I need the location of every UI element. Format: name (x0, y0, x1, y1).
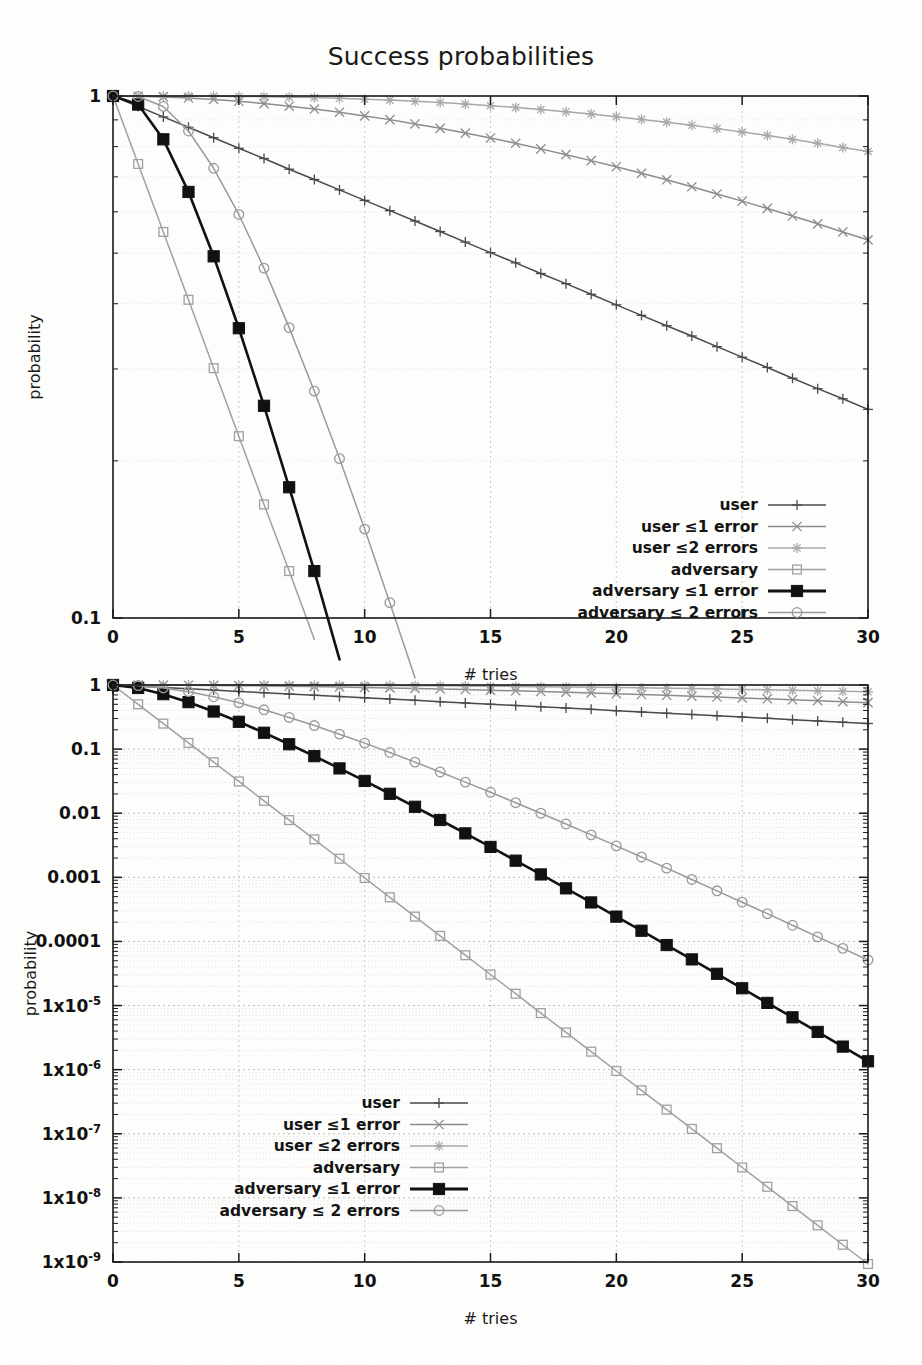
x-tick-label: 5 (233, 627, 245, 647)
data-point-plus (309, 690, 319, 700)
data-point-asterisk (838, 142, 848, 152)
data-point-plus (460, 698, 470, 708)
y-tick-label: 0.01 (59, 803, 101, 823)
data-point-filled-square (233, 323, 244, 334)
data-point-plus (435, 697, 445, 707)
data-point-plus (813, 716, 823, 726)
legend: useruser ≤1 erroruser ≤2 errorsadversary… (577, 496, 826, 622)
legend-label: adversary (671, 561, 758, 579)
data-point-filled-square (433, 1183, 444, 1194)
legend-label: user ≤2 errors (632, 539, 758, 557)
x-tick-label: 5 (233, 1271, 245, 1291)
data-point-plus (385, 694, 395, 704)
legend-label: user (362, 1094, 401, 1112)
data-point-plus (838, 717, 848, 727)
data-point-plus (788, 715, 798, 725)
data-point-cross (712, 189, 721, 198)
data-point-plus (158, 112, 168, 122)
data-point-asterisk (838, 686, 848, 696)
y-tick-label: 1x10-5 (42, 994, 101, 1016)
data-point-asterisk (637, 114, 647, 124)
legend-label: adversary ≤1 error (234, 1180, 400, 1198)
data-point-filled-square (791, 585, 802, 596)
data-point-filled-square (611, 911, 622, 922)
data-point-asterisk (813, 138, 823, 148)
x-tick-label: 10 (353, 627, 377, 647)
x-tick-label: 10 (353, 1271, 377, 1291)
series-0 (108, 91, 873, 414)
data-point-plus (561, 279, 571, 289)
data-point-asterisk (335, 93, 345, 103)
data-point-filled-square (284, 739, 295, 750)
data-point-plus (813, 384, 823, 394)
data-point-filled-square (636, 925, 647, 936)
data-point-asterisk (561, 107, 571, 117)
data-point-plus (788, 373, 798, 383)
data-point-plus (486, 699, 496, 709)
data-point-cross (662, 175, 671, 184)
data-point-plus (712, 711, 722, 721)
data-point-asterisk (511, 681, 521, 691)
data-point-plus (511, 700, 521, 710)
data-point-filled-square (309, 565, 320, 576)
data-point-asterisk (687, 120, 697, 130)
y-tick-label: 1x10-8 (42, 1186, 101, 1208)
data-point-plus (486, 248, 496, 258)
data-point-asterisk (586, 109, 596, 119)
data-point-plus (611, 300, 621, 310)
legend: useruser ≤1 erroruser ≤2 errorsadversary… (219, 1094, 468, 1220)
data-point-cross (788, 211, 797, 220)
data-point-filled-square (586, 897, 597, 908)
data-point-plus (611, 706, 621, 716)
data-point-filled-square (208, 706, 219, 717)
y-tick-label: 1 (89, 675, 101, 695)
page-title: Success probabilities (0, 42, 922, 71)
data-point-asterisk (284, 92, 294, 102)
series-line (113, 96, 314, 639)
data-point-asterisk (561, 682, 571, 692)
data-point-asterisk (813, 686, 823, 696)
data-point-plus (460, 237, 470, 247)
data-point-plus (637, 310, 647, 320)
data-point-filled-square (737, 983, 748, 994)
y-tick-label: 1x10-6 (42, 1058, 101, 1080)
data-point-asterisk (611, 112, 621, 122)
data-point-plus (662, 708, 672, 718)
data-point-plus (536, 702, 546, 712)
y-tick-label: 1x10-9 (42, 1250, 101, 1272)
data-point-plus (259, 154, 269, 164)
top-chart-svg: 05101520253010.1# triesprobabilityuserus… (0, 70, 922, 680)
data-point-filled-square (711, 968, 722, 979)
data-point-plus (234, 143, 244, 153)
data-point-plus (385, 206, 395, 216)
top-chart: 05101520253010.1# triesprobabilityuserus… (0, 70, 922, 680)
data-point-filled-square (686, 954, 697, 965)
data-point-asterisk (460, 99, 470, 109)
y-tick-label: 0.1 (71, 739, 101, 759)
data-point-plus (360, 693, 370, 703)
data-point-plus (762, 713, 772, 723)
data-point-asterisk (434, 1141, 444, 1151)
data-point-asterisk (511, 102, 521, 112)
data-point-filled-square (485, 841, 496, 852)
data-point-asterisk (410, 96, 420, 106)
data-point-filled-square (233, 716, 244, 727)
data-point-asterisk (737, 127, 747, 137)
data-point-filled-square (183, 697, 194, 708)
data-point-filled-square (284, 482, 295, 493)
data-point-plus (712, 342, 722, 352)
data-point-cross (687, 182, 696, 191)
data-point-filled-square (460, 828, 471, 839)
data-point-filled-square (359, 775, 370, 786)
data-point-filled-square (837, 1041, 848, 1052)
legend-label: user (720, 496, 759, 514)
series-line (113, 96, 340, 659)
data-point-plus (737, 352, 747, 362)
y-tick-label: 0.001 (47, 867, 101, 887)
data-point-plus (792, 500, 802, 510)
data-point-filled-square (158, 134, 169, 145)
series-line (113, 96, 415, 678)
series-3 (109, 92, 315, 640)
tick-labels: 05101520253010.10.010.0010.00011x10-51x1… (35, 675, 880, 1291)
series-group (107, 90, 873, 677)
